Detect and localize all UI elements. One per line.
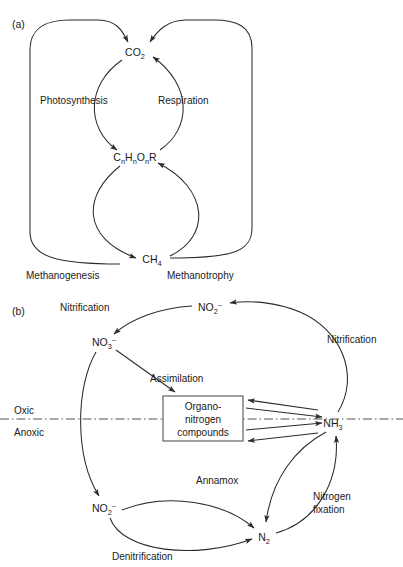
label-nitrification-left: Nitrification: [60, 302, 109, 313]
organo-nitrogen-line-2: nitrogen: [185, 414, 221, 425]
arrow-outer-left-loop: [30, 20, 128, 264]
arrow-nitrate-to-nitrite: [81, 352, 99, 496]
label-nitrogen-fixation-line-1: Nitrogen: [313, 491, 351, 502]
node-co2: CO2: [125, 46, 145, 61]
label-denitrification: Denitrification: [112, 551, 173, 562]
node-nitrite-top: NO2–: [198, 300, 223, 315]
label-annamox: Annamox: [196, 475, 238, 486]
zone-label-oxic: Oxic: [14, 405, 34, 416]
label-nitrogen-fixation-line-2: fixation: [313, 504, 345, 515]
node-dinitrogen: N2: [258, 531, 270, 546]
arrow-assimilation: [116, 350, 175, 392]
arrow-methanogenesis-inner: [93, 166, 136, 258]
organo-nitrogen-line-3: compounds: [177, 427, 229, 438]
panel-b-label: (b): [12, 305, 25, 317]
panel-a-label: (a): [12, 18, 25, 30]
label-nitrification-right: Nitrification: [327, 334, 376, 345]
label-photosynthesis: Photosynthesis: [40, 95, 108, 106]
organo-nitrogen-line-1: Organo-: [185, 401, 222, 412]
arrow-nh3-to-box-upper: [248, 400, 318, 410]
arrow-nitrite-to-n2-upper: [122, 501, 254, 528]
figure-container: (a) CO2 CnHnOnR CH4 Photosynthesis Respi…: [0, 0, 403, 567]
node-ammonia: NH3: [323, 417, 342, 432]
node-organic-matter: CnHnOnR: [113, 151, 157, 166]
node-nitrite-bottom: NO2–: [92, 501, 117, 516]
biogeochemical-cycle-diagram: (a) CO2 CnHnOnR CH4 Photosynthesis Respi…: [0, 0, 403, 567]
label-assimilation: Assimilation: [150, 373, 203, 384]
label-methanogenesis: Methanogenesis: [26, 270, 99, 281]
arrow-box-to-nh3-lower: [246, 423, 322, 430]
arrow-nh3-to-box-lower: [248, 433, 318, 441]
arrow-nitrogen-fixation: [276, 436, 336, 533]
zone-label-anoxic: Anoxic: [14, 427, 44, 438]
arrow-denitrification: [110, 518, 252, 551]
arrow-nitrification-right: [230, 302, 347, 412]
node-nitrate: NO3–: [92, 335, 117, 350]
arrow-outer-right-loop: [150, 20, 252, 258]
label-methanotrophy: Methanotrophy: [167, 270, 234, 281]
node-ch4: CH4: [142, 253, 161, 268]
arrow-nitrification-left: [114, 306, 192, 334]
arrow-methanotrophy-inner: [158, 163, 199, 256]
label-respiration: Respiration: [158, 95, 209, 106]
